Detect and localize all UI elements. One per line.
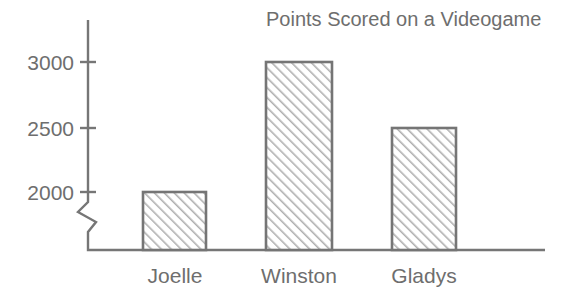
chart-canvas: Points Scored on a Videogame 3000 2500 2… (0, 0, 562, 292)
y-axis-label-2000: 2000 (27, 181, 74, 204)
bar-joelle (143, 192, 206, 250)
x-axis-label-gladys: Gladys (391, 264, 456, 287)
y-axis-label-3000: 3000 (27, 51, 74, 74)
x-axis-label-joelle: Joelle (148, 264, 203, 287)
chart-title: Points Scored on a Videogame (266, 8, 541, 30)
bar-gladys (392, 128, 456, 250)
x-axis-label-winston: Winston (261, 264, 337, 287)
bar-chart-figure: Points Scored on a Videogame 3000 2500 2… (0, 0, 562, 292)
y-axis-label-2500: 2500 (27, 117, 74, 140)
bar-winston (266, 62, 332, 250)
